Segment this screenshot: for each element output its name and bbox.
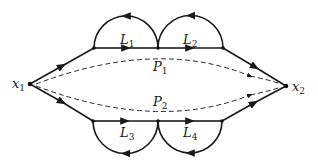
edge-top-x2-b (255, 67, 286, 86)
node-x1 (28, 82, 33, 87)
node-top-1 (92, 46, 96, 50)
label-x2: x2 (292, 79, 305, 96)
node-top-2 (156, 46, 160, 50)
edge-top-x2-a (223, 48, 255, 67)
node-bot-2 (156, 119, 160, 123)
node-bot-1 (91, 119, 95, 123)
node-bot-3 (220, 119, 224, 123)
edge-bot-x2-a (222, 103, 254, 121)
edge-x1-top-a (30, 66, 62, 84)
signal-flow-graph: x1 x2 L1 L2 L3 L4 P1 P2 (0, 0, 318, 167)
node-top-3 (221, 46, 225, 50)
node-x2 (284, 84, 289, 89)
label-P2: P2 (152, 94, 167, 111)
label-L3: L3 (119, 125, 135, 142)
edge-x1-top-b (62, 48, 94, 66)
label-L2: L2 (182, 32, 197, 49)
edge-x1-bot-a (30, 84, 62, 102)
label-x1: x1 (12, 76, 25, 93)
label-L4: L4 (182, 125, 198, 142)
path-P2-a (36, 86, 250, 111)
edge-bot-x2-b (254, 86, 286, 103)
label-P1: P1 (152, 59, 167, 76)
label-L1: L1 (119, 32, 134, 49)
edge-x1-bot-b (62, 102, 93, 121)
